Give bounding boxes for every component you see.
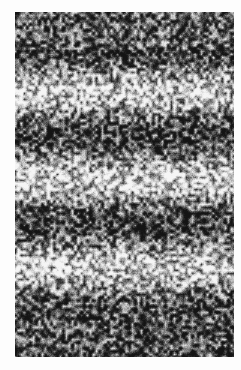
speckle-canvas (15, 12, 234, 357)
speckle-pattern-image (15, 12, 234, 357)
